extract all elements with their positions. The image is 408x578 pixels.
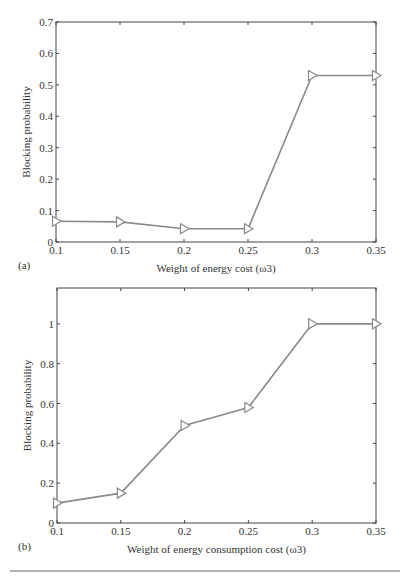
triangle-marker-icon bbox=[181, 420, 190, 430]
y-tick-label: 0.4 bbox=[40, 437, 54, 449]
x-tick-label: 0.25 bbox=[239, 525, 259, 537]
y-tick-label: 0.5 bbox=[39, 79, 53, 91]
y-tick-label: 0 bbox=[48, 236, 54, 248]
x-tick-label: 0.2 bbox=[178, 525, 192, 537]
triangle-marker-icon bbox=[245, 402, 254, 412]
data-line bbox=[57, 324, 376, 503]
panel-label: (a) bbox=[18, 259, 31, 272]
triangle-marker-icon bbox=[54, 498, 63, 508]
y-tick-label: 0.3 bbox=[39, 142, 53, 154]
x-tick-label: 0.35 bbox=[366, 244, 386, 256]
x-tick-label: 0.2 bbox=[177, 244, 191, 256]
y-axis-label: Blocking probability bbox=[20, 86, 32, 178]
triangle-marker-icon bbox=[309, 70, 318, 80]
y-tick-label: 0.7 bbox=[39, 16, 53, 28]
y-tick-label: 0.2 bbox=[40, 477, 54, 489]
plot-frame bbox=[56, 22, 376, 242]
x-tick-label: 0.3 bbox=[305, 244, 319, 256]
x-axis-label: Weight of energy cost (ω3) bbox=[156, 262, 276, 275]
chart-a: 0.10.150.20.250.30.3500.10.20.30.40.50.6… bbox=[18, 16, 386, 275]
y-tick-label: 1 bbox=[49, 318, 55, 330]
triangle-marker-icon bbox=[309, 319, 318, 329]
y-tick-label: 0.6 bbox=[40, 398, 54, 410]
y-tick-label: 0.8 bbox=[40, 358, 54, 370]
x-tick-label: 0.15 bbox=[110, 244, 130, 256]
triangle-marker-icon bbox=[181, 224, 190, 234]
chart-b: 0.10.150.20.250.30.3500.20.40.60.81Weigh… bbox=[18, 288, 386, 556]
y-tick-label: 0.6 bbox=[39, 47, 53, 59]
x-tick-label: 0.3 bbox=[305, 525, 319, 537]
panel-label: (b) bbox=[18, 540, 31, 553]
triangle-marker-icon bbox=[373, 70, 382, 80]
y-tick-label: 0 bbox=[49, 517, 55, 529]
triangle-marker-icon bbox=[373, 319, 382, 329]
x-tick-label: 0.15 bbox=[111, 525, 131, 537]
data-line bbox=[56, 75, 376, 228]
x-tick-label: 0.35 bbox=[366, 525, 386, 537]
triangle-marker-icon bbox=[53, 216, 62, 226]
figure: 0.10.150.20.250.30.3500.10.20.30.40.50.6… bbox=[0, 0, 408, 578]
y-tick-label: 0.2 bbox=[39, 173, 53, 185]
y-tick-label: 0.1 bbox=[39, 205, 53, 217]
x-axis-label: Weight of energy consumption cost (ω3) bbox=[127, 543, 306, 556]
y-tick-label: 0.4 bbox=[39, 110, 53, 122]
y-axis-label: Blocking probability bbox=[21, 359, 33, 451]
triangle-marker-icon bbox=[117, 217, 126, 227]
x-tick-label: 0.25 bbox=[238, 244, 258, 256]
